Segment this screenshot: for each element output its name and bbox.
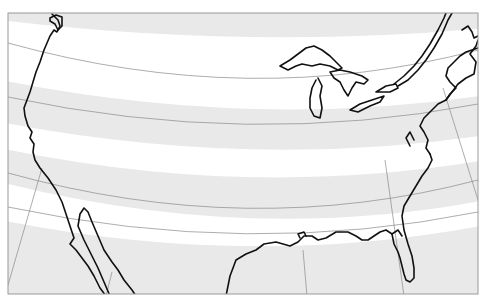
lake-superior: [280, 46, 342, 70]
lake-ontario: [376, 84, 398, 92]
florida-peninsula: [392, 230, 402, 236]
us-map: [0, 0, 486, 303]
latitude-band-1: [0, 0, 486, 37]
coastline-new-england: [446, 40, 478, 100]
